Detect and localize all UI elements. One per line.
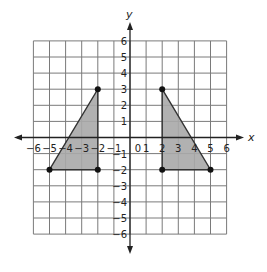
x-tick-label: −5 — [42, 143, 57, 154]
x-arrow-left-icon — [14, 135, 22, 141]
y-tick-label: −1 — [112, 149, 127, 160]
x-tick-label: −6 — [26, 143, 41, 154]
x-arrow-right-icon — [236, 135, 244, 141]
x-tick-label: 3 — [175, 143, 181, 154]
x-tick-label: 0 — [135, 143, 141, 154]
y-tick-label: 3 — [121, 84, 127, 95]
vertex-point — [95, 86, 101, 92]
y-tick-label: 2 — [121, 100, 127, 111]
x-tick-label: 2 — [159, 143, 165, 154]
x-tick-label: −3 — [74, 143, 89, 154]
y-arrow-up-icon — [127, 22, 133, 30]
y-tick-label: −2 — [112, 165, 127, 176]
y-tick-label: 4 — [121, 68, 127, 79]
y-tick-label: −5 — [112, 213, 127, 224]
vertex-point — [95, 167, 101, 173]
x-tick-label: −4 — [58, 143, 73, 154]
right-triangle — [162, 89, 210, 170]
x-tick-label: 1 — [143, 143, 149, 154]
x-tick-label: −2 — [90, 143, 105, 154]
y-tick-label: −3 — [112, 181, 127, 192]
x-tick-label: 5 — [207, 143, 213, 154]
left-triangle — [50, 89, 98, 170]
y-arrow-down-icon — [127, 246, 133, 254]
y-tick-label: 1 — [121, 116, 127, 127]
vertex-point — [159, 167, 165, 173]
y-tick-label: −6 — [112, 229, 127, 240]
vertex-point — [208, 167, 214, 173]
y-tick-label: 6 — [121, 36, 127, 47]
vertex-point — [159, 86, 165, 92]
x-tick-label: 6 — [223, 143, 229, 154]
coordinate-plane: −6−5−4−3−2−10123456654321−1−2−3−4−5−6 x … — [0, 0, 267, 272]
vertex-point — [47, 167, 53, 173]
x-tick-label: 4 — [191, 143, 197, 154]
y-axis-label: y — [125, 8, 133, 21]
x-axis-label: x — [247, 131, 255, 144]
y-tick-label: 5 — [121, 52, 127, 63]
y-tick-label: −4 — [112, 197, 127, 208]
